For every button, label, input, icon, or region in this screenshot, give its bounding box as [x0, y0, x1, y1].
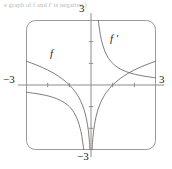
y-axis-max-label: 3 [79, 2, 85, 14]
x-axis-max-label: 3 [159, 73, 165, 85]
figure-container: e graph of f and f' is negative.) 3 −3 −… [0, 0, 172, 169]
curve-label-f: f [50, 47, 53, 59]
curve-label-f-prime: f ′ [110, 32, 118, 44]
caption-fragment: e graph of f and f' is negative.) [4, 0, 134, 9]
x-axis-min-label: −3 [3, 73, 15, 85]
graph-plot [0, 0, 172, 169]
y-axis-min-label: −3 [77, 150, 89, 162]
